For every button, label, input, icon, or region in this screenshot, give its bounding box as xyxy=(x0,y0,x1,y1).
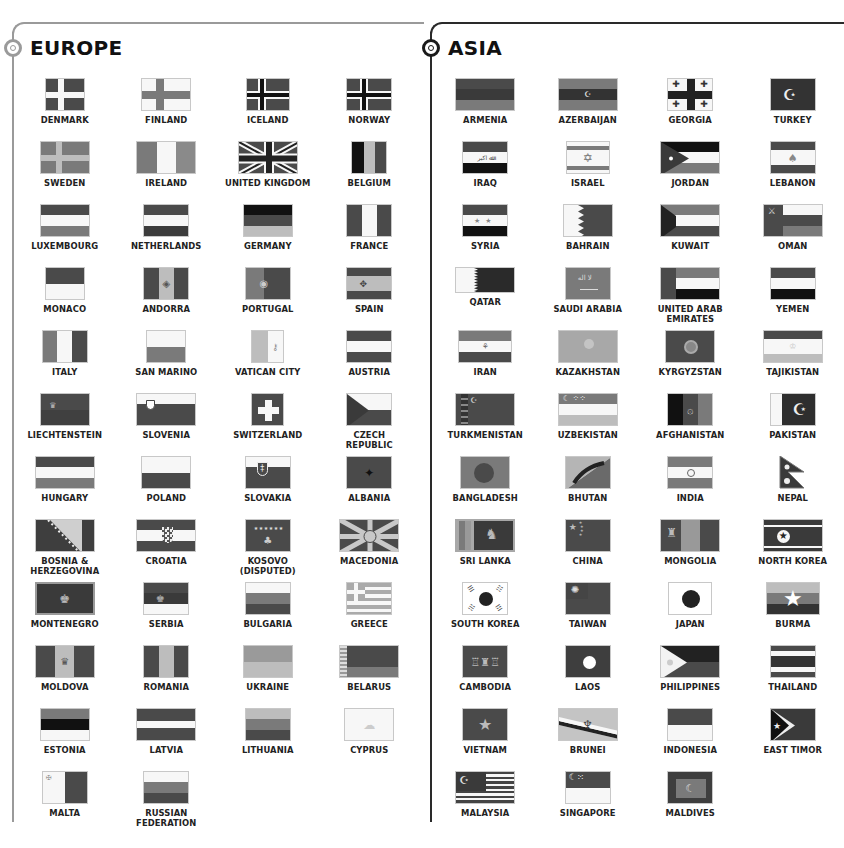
country-germany[interactable]: GERMANY xyxy=(217,204,319,267)
country-andorra[interactable]: ◈ ANDORRA xyxy=(116,267,218,330)
country-north-korea[interactable]: ★ NORTH KOREA xyxy=(742,519,844,582)
country-kosovo[interactable]: ★★★★★★♣ KOSOVO (DISPUTED) xyxy=(217,519,319,582)
country-vatican-city[interactable]: ⚷ VATICAN CITY xyxy=(217,330,319,393)
country-label: CYPRUS xyxy=(350,745,388,755)
country-monaco[interactable]: MONACO xyxy=(14,267,116,330)
country-united-kingdom[interactable]: UNITED KINGDOM xyxy=(217,141,319,204)
country-moldova[interactable]: ♛ MOLDOVA xyxy=(14,645,116,708)
country-montenegro[interactable]: ♚ MONTENEGRO xyxy=(14,582,116,645)
country-lithuania[interactable]: LITHUANIA xyxy=(217,708,319,771)
country-afghanistan[interactable]: ۞ AFGHANISTAN xyxy=(639,393,742,456)
country-russian-federation[interactable]: RUSSIAN FEDERATION xyxy=(116,771,218,834)
country-kuwait[interactable]: KUWAIT xyxy=(639,204,742,267)
country-poland[interactable]: POLAND xyxy=(116,456,218,519)
country-bahrain[interactable]: BAHRAIN xyxy=(537,204,640,267)
country-philippines[interactable]: PHILIPPINES xyxy=(639,645,742,708)
country-vietnam[interactable]: ★ VIETNAM xyxy=(434,708,537,771)
country-romania[interactable]: ROMANIA xyxy=(116,645,218,708)
country-sweden[interactable]: SWEDEN xyxy=(14,141,116,204)
country-bosnia-herzegovina[interactable]: BOSNIA & HERZEGOVINA xyxy=(14,519,116,582)
country-portugal[interactable]: ◉ PORTUGAL xyxy=(217,267,319,330)
country-mongolia[interactable]: ♜ MONGOLIA xyxy=(639,519,742,582)
country-czech-republic[interactable]: CZECH REPUBLIC xyxy=(319,393,421,456)
philippines-flag-icon xyxy=(660,645,720,678)
country-kazakhstan[interactable]: KAZAKHSTAN xyxy=(537,330,640,393)
country-ukraine[interactable]: UKRAINE xyxy=(217,645,319,708)
country-taiwan[interactable]: ✺ TAIWAN xyxy=(537,582,640,645)
country-turkey[interactable]: ☪ TURKEY xyxy=(742,78,844,141)
country-malaysia[interactable]: ☪ MALAYSIA xyxy=(434,771,537,834)
country-estonia[interactable]: ESTONIA xyxy=(14,708,116,771)
country-united-arab-emirates[interactable]: UNITED ARAB EMIRATES xyxy=(639,267,742,330)
country-austria[interactable]: AUSTRIA xyxy=(319,330,421,393)
country-maldives[interactable]: ☾ MALDIVES xyxy=(639,771,742,834)
country-luxembourg[interactable]: LUXEMBOURG xyxy=(14,204,116,267)
country-uzbekistan[interactable]: ☾ ⁘⁘ UZBEKISTAN xyxy=(537,393,640,456)
country-cambodia[interactable]: ♖♜♖ CAMBODIA xyxy=(434,645,537,708)
country-malta[interactable]: ✠ MALTA xyxy=(14,771,116,834)
country-iraq[interactable]: ﷲ ﺍﻛﺒﺮ IRAQ xyxy=(434,141,537,204)
country-netherlands[interactable]: NETHERLANDS xyxy=(116,204,218,267)
country-cyprus[interactable]: ☁ CYPRUS xyxy=(319,708,421,771)
country-tajikistan[interactable]: ♔ TAJIKISTAN xyxy=(742,330,844,393)
country-oman[interactable]: ⚔ OMAN xyxy=(742,204,844,267)
country-azerbaijan[interactable]: ☪ AZERBAIJAN xyxy=(537,78,640,141)
country-belarus[interactable]: BELARUS xyxy=(319,645,421,708)
country-nepal[interactable]: NEPAL xyxy=(742,456,844,519)
country-qatar[interactable]: QATAR xyxy=(434,267,537,330)
country-pakistan[interactable]: ☪ PAKISTAN xyxy=(742,393,844,456)
country-armenia[interactable]: ARMENIA xyxy=(434,78,537,141)
country-jordan[interactable]: JORDAN xyxy=(639,141,742,204)
country-brunei[interactable]: ♆ BRUNEI xyxy=(537,708,640,771)
country-indonesia[interactable]: INDONESIA xyxy=(639,708,742,771)
country-china[interactable]: ★★ ★ ★★ CHINA xyxy=(537,519,640,582)
country-label: SYRIA xyxy=(471,241,500,251)
country-norway[interactable]: NORWAY xyxy=(319,78,421,141)
country-india[interactable]: INDIA xyxy=(639,456,742,519)
country-south-korea[interactable]: ☰ ☷ ☵ ☲ SOUTH KOREA xyxy=(434,582,537,645)
country-lebanon[interactable]: ♠ LEBANON xyxy=(742,141,844,204)
country-denmark[interactable]: DENMARK xyxy=(14,78,116,141)
country-label: THAILAND xyxy=(768,682,817,692)
country-burma[interactable]: ★ BURMA xyxy=(742,582,844,645)
country-kyrgyzstan[interactable]: KYRGYZSTAN xyxy=(639,330,742,393)
country-georgia[interactable]: ✚ ✚ ✚ ✚ GEORGIA xyxy=(639,78,742,141)
country-slovenia[interactable]: SLOVENIA xyxy=(116,393,218,456)
country-bhutan[interactable]: BHUTAN xyxy=(537,456,640,519)
country-israel[interactable]: ✡ ISRAEL xyxy=(537,141,640,204)
country-switzerland[interactable]: SWITZERLAND xyxy=(217,393,319,456)
country-spain[interactable]: ✥ SPAIN xyxy=(319,267,421,330)
country-turkmenistan[interactable]: ☪ TURKMENISTAN xyxy=(434,393,537,456)
country-east-timor[interactable]: ★ EAST TIMOR xyxy=(742,708,844,771)
country-slovakia[interactable]: ‡ SLOVAKIA xyxy=(217,456,319,519)
country-france[interactable]: FRANCE xyxy=(319,204,421,267)
country-italy[interactable]: ITALY xyxy=(14,330,116,393)
country-saudi-arabia[interactable]: ﻻ ﺍﻟﻪ SAUDI ARABIA xyxy=(537,267,640,330)
country-finland[interactable]: FINLAND xyxy=(116,78,218,141)
country-thailand[interactable]: THAILAND xyxy=(742,645,844,708)
country-ireland[interactable]: IRELAND xyxy=(116,141,218,204)
country-croatia[interactable]: CROATIA xyxy=(116,519,218,582)
country-label: RUSSIAN FEDERATION xyxy=(116,808,218,828)
country-label: ANDORRA xyxy=(142,304,190,314)
country-serbia[interactable]: ♚ SERBIA xyxy=(116,582,218,645)
country-hungary[interactable]: HUNGARY xyxy=(14,456,116,519)
country-yemen[interactable]: YEMEN xyxy=(742,267,844,330)
country-iceland[interactable]: ICELAND xyxy=(217,78,319,141)
country-latvia[interactable]: LATVIA xyxy=(116,708,218,771)
country-bulgaria[interactable]: BULGARIA xyxy=(217,582,319,645)
country-label: SRI LANKA xyxy=(460,556,511,566)
country-laos[interactable]: LAOS xyxy=(537,645,640,708)
country-iran[interactable]: ⚘ IRAN xyxy=(434,330,537,393)
country-greece[interactable]: GREECE xyxy=(319,582,421,645)
country-san-marino[interactable]: SAN MARINO xyxy=(116,330,218,393)
country-liechtenstein[interactable]: ♛ LIECHTENSTEIN xyxy=(14,393,116,456)
country-singapore[interactable]: ☾⁙ SINGAPORE xyxy=(537,771,640,834)
country-macedonia[interactable]: MACEDONIA xyxy=(319,519,421,582)
country-bangladesh[interactable]: BANGLADESH xyxy=(434,456,537,519)
country-sri-lanka[interactable]: ♞ SRI LANKA xyxy=(434,519,537,582)
country-belgium[interactable]: BELGIUM xyxy=(319,141,421,204)
country-syria[interactable]: ★★ SYRIA xyxy=(434,204,537,267)
country-japan[interactable]: JAPAN xyxy=(639,582,742,645)
country-albania[interactable]: ✦ ALBANIA xyxy=(319,456,421,519)
